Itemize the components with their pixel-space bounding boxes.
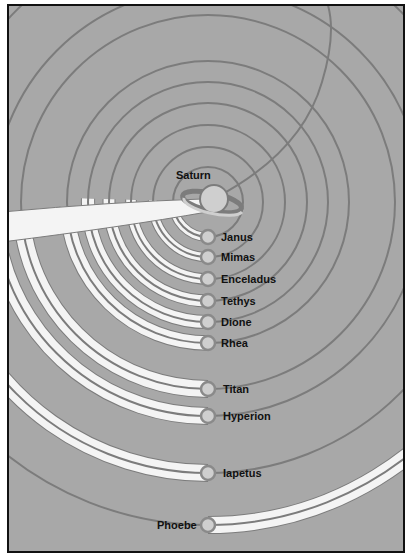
- orbit-diagram: [9, 6, 405, 553]
- moon-icon-rhea: [201, 336, 215, 350]
- planet-label-saturn: Saturn: [176, 169, 211, 181]
- moon-label-dione: Dione: [221, 316, 252, 328]
- moon-icon-iapetus: [201, 466, 215, 480]
- moon-label-janus: Janus: [221, 231, 253, 243]
- orbit-trail-outline: [208, 349, 405, 525]
- moon-icon-mimas: [201, 250, 215, 264]
- moon-label-hyperion: Hyperion: [223, 410, 271, 422]
- moon-label-enceladus: Enceladus: [221, 273, 276, 285]
- orbit-trail-phoebe: [208, 349, 405, 525]
- saturn-icon: [200, 185, 228, 213]
- moon-icon-titan: [201, 382, 215, 396]
- moon-icon-hyperion: [201, 409, 215, 423]
- moon-label-mimas: Mimas: [221, 251, 255, 263]
- moon-label-phoebe: Phoebe: [157, 519, 197, 531]
- moon-label-tethys: Tethys: [221, 295, 256, 307]
- moon-icon-janus: [201, 230, 215, 244]
- orbit-phoebe: [9, 6, 405, 525]
- diagram-frame: Saturn Janus Mimas Enceladus Tethys Dion…: [7, 4, 405, 553]
- moon-icon-phoebe: [201, 518, 215, 532]
- moon-icon-tethys: [201, 294, 215, 308]
- moon-label-iapetus: Iapetus: [223, 467, 262, 479]
- moon-icon-dione: [201, 315, 215, 329]
- moon-label-titan: Titan: [223, 383, 249, 395]
- moon-label-rhea: Rhea: [221, 337, 248, 349]
- moon-icon-enceladus: [201, 272, 215, 286]
